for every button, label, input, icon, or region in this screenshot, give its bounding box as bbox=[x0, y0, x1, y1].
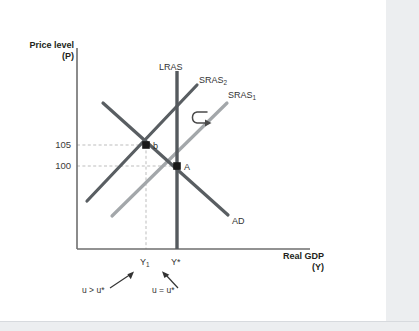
x-axis-title: Real GDP (Y) bbox=[268, 251, 324, 272]
x-axis-title-line1: Real GDP bbox=[268, 251, 324, 262]
curve-label-sras1-text: SRAS bbox=[228, 90, 253, 100]
curve-label-sras2-sub: 2 bbox=[224, 79, 228, 86]
curve-label-sras2-text: SRAS bbox=[199, 75, 224, 85]
y-tick-label-105: 105 bbox=[40, 139, 71, 150]
x-tick-label-ystar-star: * bbox=[177, 257, 181, 267]
curve-label-sras1-sub: 1 bbox=[253, 94, 257, 101]
page-right-margin bbox=[386, 0, 419, 322]
note-u-equal: u = u* bbox=[152, 285, 174, 295]
point-label-b: b bbox=[153, 141, 158, 152]
diagram-canvas: Price level (P) Real GDP (Y) 105 100 LRA… bbox=[0, 0, 386, 322]
curve-label-ad: AD bbox=[232, 216, 245, 227]
x-tick-label-y1-sub: 1 bbox=[146, 261, 150, 268]
y-tick-label-100: 100 bbox=[40, 160, 71, 171]
point-marker-b bbox=[142, 141, 150, 149]
page-bottom-margin bbox=[0, 321, 419, 331]
curve-label-sras1: SRAS1 bbox=[228, 90, 256, 101]
y-axis-title-line2: (P) bbox=[12, 51, 74, 62]
figure-root: Price level (P) Real GDP (Y) 105 100 LRA… bbox=[0, 0, 419, 331]
curve-label-sras2: SRAS2 bbox=[199, 75, 227, 86]
point-label-a: A bbox=[184, 162, 190, 173]
x-tick-label-y1: Y1 bbox=[140, 257, 150, 268]
curve-label-lras: LRAS bbox=[159, 62, 183, 73]
point-marker-a bbox=[173, 162, 181, 170]
note-u-greater: u > u* bbox=[82, 285, 104, 295]
y-axis-title-line1: Price level bbox=[12, 40, 74, 51]
y-axis-title: Price level (P) bbox=[12, 40, 74, 61]
x-axis-title-line2: (Y) bbox=[268, 262, 324, 273]
x-tick-label-ystar: Y* bbox=[171, 257, 181, 268]
